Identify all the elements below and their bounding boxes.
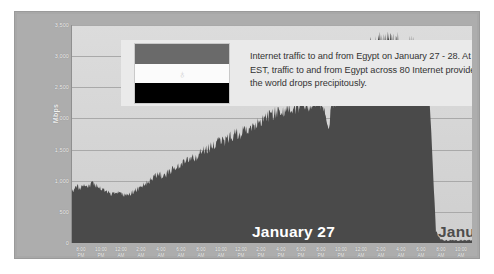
y-axis-tick-label: 500 — [33, 209, 69, 215]
chart-card: Mbps 3,5003,0002,5002,0001,5001,0005000 … — [14, 11, 480, 259]
flag-band-red — [135, 44, 229, 64]
chart-card-inner: Mbps 3,5003,0002,5002,0001,5001,0005000 … — [17, 14, 477, 256]
x-tick-ampm: AM — [448, 253, 474, 259]
plot-area: January 27 January 28 Credit: Arbor Netw… — [71, 25, 472, 243]
y-axis-tick-label: 0 — [33, 240, 69, 246]
y-axis-tick-label: 3,000 — [33, 53, 69, 59]
screenshot-root: Mbps 3,5003,0002,5002,0001,5001,0005000 … — [0, 0, 494, 274]
y-axis-tick-label: 3,500 — [33, 22, 69, 28]
y-axis-ticks: 3,5003,0002,5002,0001,5001,0005000 — [33, 20, 69, 248]
y-axis-tick-label: 2,500 — [33, 84, 69, 90]
y-axis-tick-label: 1,500 — [33, 147, 69, 153]
eagle-of-saladin-icon: ♁ — [178, 68, 186, 79]
y-axis-tick-label: 1,000 — [33, 178, 69, 184]
egypt-flag-icon: ♁ — [134, 43, 230, 104]
annotation-caption: Internet traffic to and from Egypt on Ja… — [250, 50, 472, 91]
day-label-january-27: January 27 — [252, 223, 335, 241]
x-axis-tick-label: 10:00AM — [448, 247, 474, 260]
flag-band-black — [135, 83, 229, 103]
annotation-panel: ♁ Internet traffic to and from Egypt on … — [121, 40, 472, 106]
x-axis-ticks: 8:00PM10:00PM12:00AM2:00AM4:00AM6:00AM8:… — [71, 247, 471, 265]
day-label-january-28: January 28 — [438, 223, 472, 241]
y-axis-tick-label: 2,000 — [33, 115, 69, 121]
